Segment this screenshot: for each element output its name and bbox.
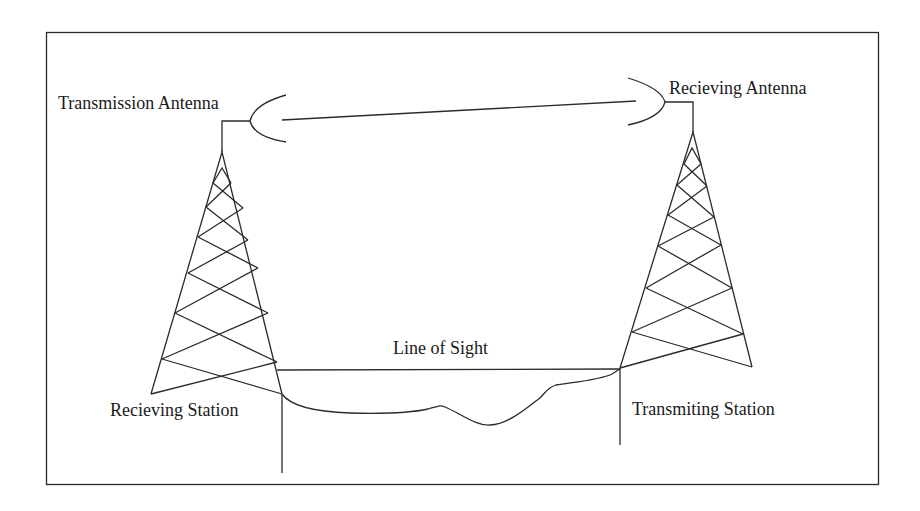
terrain-profile-curve — [282, 369, 620, 425]
transmiting-station-label: Transmiting Station — [632, 399, 775, 419]
transmission-antenna-icon — [222, 95, 286, 152]
left-tower-icon — [151, 152, 282, 394]
line-of-sight-label: Line of Sight — [393, 338, 488, 358]
recieving-antenna-label: Recieving Antenna — [669, 78, 806, 98]
recieving-station-label: Recieving Station — [110, 400, 238, 420]
signal-beam-line — [282, 101, 636, 120]
line-of-sight-line — [277, 369, 620, 370]
line-of-sight-diagram: Transmission Antenna Recieving Antenna L… — [0, 0, 920, 511]
transmission-antenna-label: Transmission Antenna — [58, 93, 219, 113]
right-tower-icon — [620, 132, 752, 368]
